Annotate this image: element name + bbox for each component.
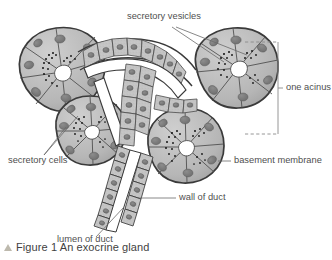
label-secretory-cells: secretory cells <box>8 155 68 165</box>
acinar-lumen <box>85 125 100 139</box>
label-secretory-vesicles: secretory vesicles <box>127 11 201 21</box>
exocrine-gland-diagram: secretory vesicles one acinus secretory … <box>0 0 332 260</box>
figure-exocrine-gland: secretory vesicles one acinus secretory … <box>0 0 332 260</box>
label-one-acinus: one acinus <box>286 82 331 92</box>
caption-text: Figure 1 An exocrine gland <box>16 241 149 253</box>
duct-epithelial-cells-connector <box>154 95 197 113</box>
triangle-up-icon <box>4 244 12 251</box>
acinar-lumen <box>179 141 195 156</box>
label-basement-membrane: basement membrane <box>234 155 322 165</box>
acinar-lumen <box>55 65 72 81</box>
figure-caption: Figure 1 An exocrine gland <box>4 241 149 253</box>
acinar-lumen <box>231 61 248 77</box>
lower-right-acinus <box>148 108 224 183</box>
label-wall-of-duct: wall of duct <box>178 192 226 202</box>
